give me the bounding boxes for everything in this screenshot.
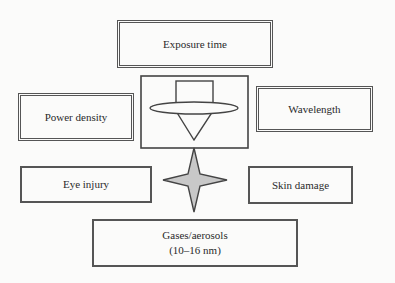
laser-source-icon	[141, 76, 248, 148]
gases-aerosols-label: Gases/aerosols	[162, 228, 227, 243]
power-density-box: Power density	[18, 93, 134, 141]
four-point-star-icon	[163, 148, 227, 212]
eye-injury-box: Eye injury	[20, 166, 152, 203]
wavelength-box: Wavelength	[256, 86, 373, 132]
power-density-label: Power density	[45, 110, 108, 125]
skin-damage-label: Skin damage	[272, 178, 329, 193]
skin-damage-box: Skin damage	[248, 166, 353, 204]
eye-injury-label: Eye injury	[63, 177, 109, 192]
exposure-time-label: Exposure time	[163, 37, 227, 52]
gases-aerosols-box: Gases/aerosols (10–16 nm)	[92, 219, 298, 267]
exposure-time-box: Exposure time	[117, 20, 273, 68]
wavelength-label: Wavelength	[288, 102, 340, 117]
gases-size-range-label: (10–16 nm)	[169, 243, 221, 258]
